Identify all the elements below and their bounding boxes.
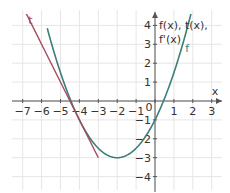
x-tick-label: −7 xyxy=(15,105,31,118)
y-tick-label: 2 xyxy=(144,57,151,70)
x-tick-label: 0 xyxy=(146,101,153,114)
x-axis-arrow-icon xyxy=(216,98,222,104)
y-tick-label: −1 xyxy=(135,114,151,127)
line-t xyxy=(25,10,99,157)
y-axis-label-line1: f(x), t(x), xyxy=(159,19,208,32)
curve-label-t: t xyxy=(28,14,33,27)
x-tick-label: −2 xyxy=(109,105,125,118)
y-tick-label: −3 xyxy=(135,152,151,165)
x-tick-label: 3 xyxy=(208,105,215,118)
y-tick-label: 3 xyxy=(144,38,151,51)
y-axis-label-line2: f'(x) xyxy=(159,33,181,46)
x-tick-label: −5 xyxy=(52,105,68,118)
y-axis-arrow-icon xyxy=(152,12,158,18)
x-tick-label: 2 xyxy=(189,105,196,118)
y-tick-label: 1 xyxy=(144,76,151,89)
y-tick-label: 4 xyxy=(144,19,151,32)
function-chart: −7−6−5−4−3−2−101234321−1−2−3−4 tfxf(x), … xyxy=(0,0,230,193)
y-tick-label: −4 xyxy=(135,171,151,184)
x-tick-label: 1 xyxy=(170,105,177,118)
x-axis-label: x xyxy=(212,85,219,98)
axis-labels: tfxf(x), t(x),f'(x) xyxy=(28,14,218,98)
x-tick-label: −6 xyxy=(33,105,49,118)
x-tick-label: −3 xyxy=(90,105,106,118)
